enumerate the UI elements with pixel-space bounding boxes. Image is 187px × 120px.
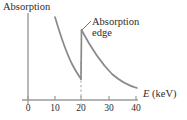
annotation-line-2: edge (92, 27, 139, 38)
y-axis-title: Absorption (3, 1, 50, 12)
x-tick-label-20: 20 (76, 103, 86, 113)
absorption-edge-jump (81, 30, 82, 79)
x-tick-label-0: 0 (26, 103, 31, 113)
absorption-curve-above-edge (82, 30, 138, 88)
x-tick-label-10: 10 (50, 103, 60, 113)
absorption-edge-figure: Absorption Absorption edge E (keV) 0 10 … (0, 0, 187, 120)
absorption-curve-below-edge (55, 17, 81, 79)
x-axis-unit: (keV) (152, 88, 177, 99)
x-axis-title: E (keV) (143, 88, 177, 99)
x-tick-label-30: 30 (104, 103, 114, 113)
x-tick-label-40: 40 (131, 103, 141, 113)
annotation-line-1: Absorption (92, 16, 139, 27)
absorption-edge-annotation: Absorption edge (92, 16, 139, 38)
annotation-leader-line (82, 21, 91, 30)
x-axis-variable: E (143, 88, 149, 99)
